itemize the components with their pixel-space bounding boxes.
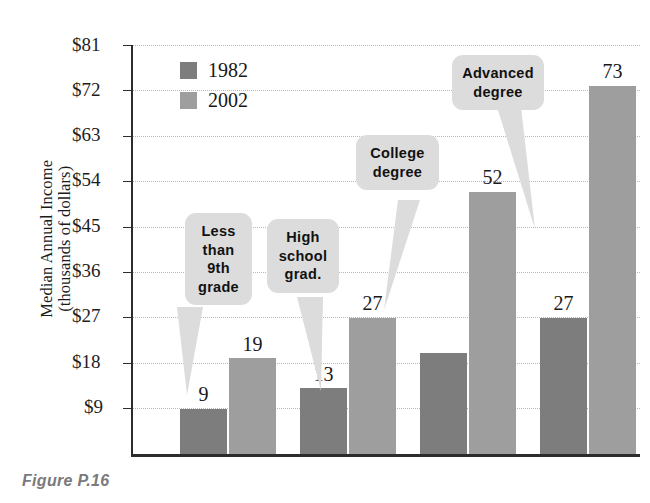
callout-tail-advanced	[483, 107, 539, 231]
callout-line: degree	[366, 163, 429, 182]
x-axis-line	[131, 454, 640, 457]
y-tick	[123, 45, 133, 46]
y-axis-line	[131, 45, 133, 456]
callout-less-than-9th-grade: Less than 9th grade	[185, 213, 252, 305]
bar-1982-college	[420, 353, 467, 454]
bar-1982-advanced	[540, 318, 587, 454]
legend-label: 1982	[208, 59, 248, 82]
bar-2002-less-than-9th	[229, 358, 276, 454]
y-tick	[123, 136, 133, 137]
bar-1982-less-than-9th	[180, 409, 227, 454]
callout-line: High	[277, 228, 329, 247]
y-tick	[123, 227, 133, 228]
y-tick	[123, 272, 133, 273]
y-tick	[123, 181, 133, 182]
callout-line: school	[277, 247, 329, 266]
callout-college-degree: College degree	[356, 135, 439, 190]
callout-line: 9th	[195, 259, 242, 278]
callout-line: degree	[462, 83, 534, 102]
callout-tail-high-school	[291, 297, 335, 393]
figure-caption: Figure P.16	[22, 472, 110, 490]
callout-line: than	[195, 241, 242, 260]
legend-swatch-icon	[180, 62, 197, 79]
legend-item-2002: 2002	[180, 87, 310, 113]
legend: 1982 2002	[180, 57, 310, 117]
callout-high-school-grad: High school grad.	[267, 219, 339, 293]
gridline	[133, 45, 640, 46]
y-tick	[123, 363, 133, 364]
bar-2002-high-school	[349, 318, 396, 454]
callout-line: Advanced	[462, 64, 534, 83]
plot-area: 9 19 13 27 52 27 73 1982 2002	[131, 45, 640, 456]
callout-line: grad.	[277, 265, 329, 284]
y-tick	[123, 408, 133, 409]
bar-value-label-1982-advanced: 27	[540, 292, 587, 315]
y-axis-title: Median Annual Income (thousands of dolla…	[38, 79, 74, 399]
bar-2002-college	[469, 192, 516, 454]
figure-container: Median Annual Income (thousands of dolla…	[0, 0, 650, 503]
callout-line: grade	[195, 278, 242, 297]
callout-tail-college	[374, 200, 422, 312]
legend-swatch-icon	[180, 92, 197, 109]
callout-tail-less-than-9th	[169, 307, 209, 397]
y-tick	[123, 317, 133, 318]
bar-2002-advanced	[589, 86, 636, 454]
legend-item-1982: 1982	[180, 57, 310, 83]
bar-value-label-2002-less-than-9th: 19	[229, 333, 276, 356]
y-axis-title-line1: Median Annual Income	[38, 79, 56, 399]
bar-1982-high-school	[300, 388, 347, 454]
callout-advanced-degree: Advanced degree	[452, 55, 544, 110]
callout-line: College	[366, 144, 429, 163]
callout-line: Less	[195, 222, 242, 241]
y-tick	[123, 90, 133, 91]
bar-value-label-2002-advanced: 73	[589, 60, 636, 83]
legend-label: 2002	[208, 89, 248, 112]
